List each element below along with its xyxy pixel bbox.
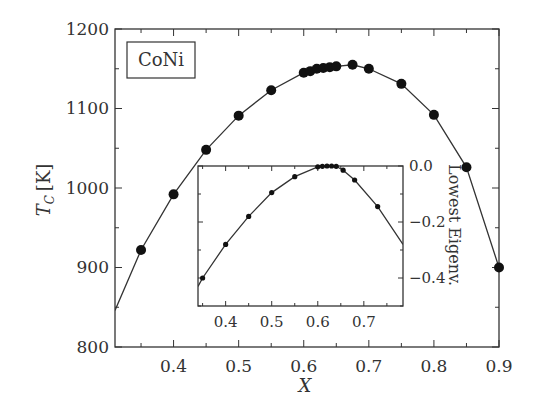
inset-data-point	[320, 164, 325, 169]
inset-data-point	[315, 164, 320, 169]
x-axis-title: X	[297, 375, 313, 396]
main-data-point	[201, 145, 211, 155]
main-data-point	[494, 263, 504, 273]
main-x-tick-label: 0.7	[355, 356, 382, 376]
inset-data-point	[324, 163, 329, 168]
inset-y-axis-title: Lowest Eigenv.	[445, 164, 464, 286]
main-y-tick-label: 800	[77, 337, 109, 357]
main-data-point	[136, 245, 146, 255]
main-data-point	[364, 64, 374, 74]
main-y-tick-label: 1000	[66, 178, 109, 198]
y-axis-title: TC[K]	[33, 164, 57, 217]
main-y-tick-label: 1100	[66, 98, 109, 118]
inset-data-point	[292, 174, 297, 179]
main-data-point	[266, 85, 276, 95]
inset-data-point	[269, 190, 274, 195]
main-y-tick-label: 1200	[66, 19, 109, 39]
inset-y-tick-label: −0.2	[409, 213, 445, 231]
main-data-point	[234, 111, 244, 121]
main-data-point	[429, 110, 439, 120]
main-data-point	[169, 189, 179, 199]
inset-data-point	[223, 242, 228, 247]
inset-x-tick-label: 0.7	[352, 313, 376, 331]
inset-y-tick-label: 0.0	[409, 157, 433, 175]
main-y-tick-label: 900	[77, 257, 109, 277]
main-x-tick-label: 0.8	[420, 356, 447, 376]
inset-data-point	[341, 168, 346, 173]
legend-box: CoNi	[127, 42, 195, 78]
inset-y-tick-label: −0.4	[409, 269, 445, 287]
inset-data-point	[246, 214, 251, 219]
chart: 0.40.50.60.70.80.9800900100011001200 0.4…	[0, 0, 539, 417]
main-x-tick-label: 0.6	[290, 356, 317, 376]
inset-data-point	[352, 177, 357, 182]
inset-x-tick-label: 0.6	[306, 313, 330, 331]
inset-data-point	[200, 275, 205, 280]
main-data-point	[396, 79, 406, 89]
svg-text:TC[K]: TC[K]	[33, 164, 57, 217]
inset-data-point	[375, 204, 380, 209]
inset-frame	[198, 166, 403, 306]
main-x-tick-label: 0.9	[485, 356, 512, 376]
main-data-point	[348, 60, 358, 70]
inset-x-tick-label: 0.4	[214, 313, 238, 331]
main-data-point	[331, 61, 341, 71]
y-axis-title-unit: [K]	[33, 164, 54, 192]
main-x-tick-label: 0.4	[160, 356, 187, 376]
inset-data-point	[334, 164, 339, 169]
y-axis-title-subscript: C	[43, 195, 57, 204]
legend-label: CoNi	[138, 49, 184, 70]
inset-x-tick-label: 0.5	[260, 313, 284, 331]
inset-data-point	[329, 163, 334, 168]
main-x-tick-label: 0.5	[225, 356, 252, 376]
